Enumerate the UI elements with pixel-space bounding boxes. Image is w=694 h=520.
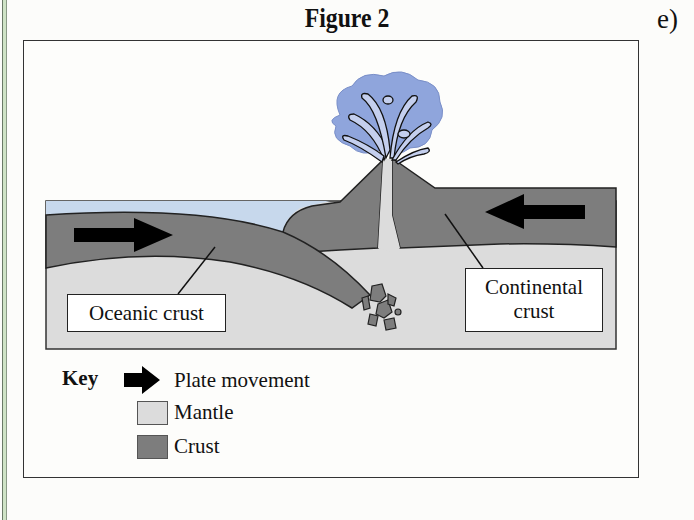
mantle-swatch	[137, 401, 168, 425]
oceanic-crust-text: Oceanic crust	[89, 301, 204, 325]
oceanic-crust-label: Oceanic crust	[67, 294, 226, 332]
key-item-plate-movement: Plate movement	[124, 366, 384, 394]
key-label: Plate movement	[174, 366, 310, 394]
key-title: Key	[62, 366, 98, 391]
key-item-crust: Crust	[124, 432, 384, 460]
continental-crust-text-line2: crust	[466, 299, 602, 323]
key-item-mantle: Mantle	[124, 398, 384, 426]
continental-crust-label: Continental crust	[465, 268, 603, 332]
eruption-plume	[332, 72, 443, 164]
key-label: Mantle	[174, 398, 233, 426]
continental-plate	[392, 158, 616, 248]
continental-crust-text-line1: Continental	[466, 275, 602, 299]
crust-swatch	[137, 435, 168, 459]
key-label: Crust	[174, 432, 220, 460]
